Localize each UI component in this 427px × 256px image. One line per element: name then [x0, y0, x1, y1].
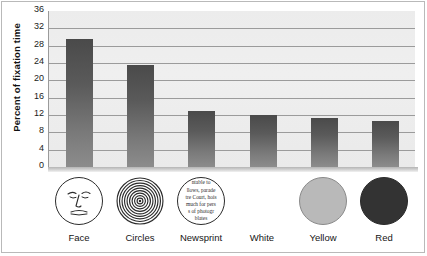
- y-tick-label: 24: [34, 57, 44, 66]
- y-tick-label: 36: [34, 5, 44, 14]
- stimulus-swatch-row: ntable tollows, paradetre Court, hoismuc…: [48, 176, 415, 228]
- x-axis-category-labels: FaceCirclesNewsprintWhiteYellowRed: [48, 232, 415, 248]
- y-tick-label: 16: [34, 92, 44, 101]
- y-tick-label: 4: [39, 144, 44, 153]
- bar: [372, 121, 399, 167]
- stimulus-swatch: [236, 176, 288, 228]
- newsprint-text: ntable tollows, paradetre Court, hoismuc…: [178, 178, 224, 224]
- newsprint-line: blates: [195, 215, 208, 222]
- red-disc-icon: [360, 177, 408, 225]
- white-disc-icon: [238, 177, 286, 225]
- y-axis-title: Percent of fixation time: [11, 8, 22, 148]
- y-tick-label: 8: [39, 126, 44, 135]
- y-tick-label: 12: [34, 109, 44, 118]
- axis-baseline-shadow: [48, 167, 418, 172]
- concentric-circles-icon: [116, 177, 164, 225]
- newsprint-line: much for pers: [186, 201, 216, 208]
- y-tick-label: 28: [34, 40, 44, 49]
- bar: [188, 111, 215, 167]
- x-axis-label: Newsprint: [166, 232, 236, 243]
- stimulus-swatch: [114, 176, 166, 228]
- newsprint-line: s of photogr: [188, 208, 214, 215]
- schematic-face-icon: [55, 177, 103, 225]
- y-tick-label: 32: [34, 22, 44, 31]
- y-tick-label: 20: [34, 74, 44, 83]
- stimulus-swatch: [53, 176, 105, 228]
- bar: [250, 115, 277, 167]
- x-axis-label: Face: [44, 232, 114, 243]
- newsprint-line: ntable to: [192, 179, 211, 186]
- y-axis-tick-labels: 04812162024283236: [24, 9, 44, 167]
- bar: [127, 65, 154, 167]
- plot-area: [48, 11, 415, 167]
- stimulus-swatch: [297, 176, 349, 228]
- y-tick-label: 0: [39, 161, 44, 170]
- bar: [311, 118, 338, 167]
- chart-figure: Percent of fixation time 048121620242832…: [0, 0, 427, 256]
- bar: [66, 39, 93, 167]
- newsprint-icon: ntable tollows, paradetre Court, hoismuc…: [177, 177, 225, 225]
- newsprint-line: llows, parade: [187, 187, 216, 194]
- x-axis-label: Red: [349, 232, 419, 243]
- x-axis-label: Circles: [105, 232, 175, 243]
- yellow-disc-icon: [299, 177, 347, 225]
- x-axis-label: White: [227, 232, 297, 243]
- newsprint-line: tre Court, hois: [186, 194, 217, 201]
- stimulus-swatch: [358, 176, 410, 228]
- bar-series: [49, 11, 415, 167]
- stimulus-swatch: ntable tollows, paradetre Court, hoismuc…: [175, 176, 227, 228]
- x-axis-label: Yellow: [288, 232, 358, 243]
